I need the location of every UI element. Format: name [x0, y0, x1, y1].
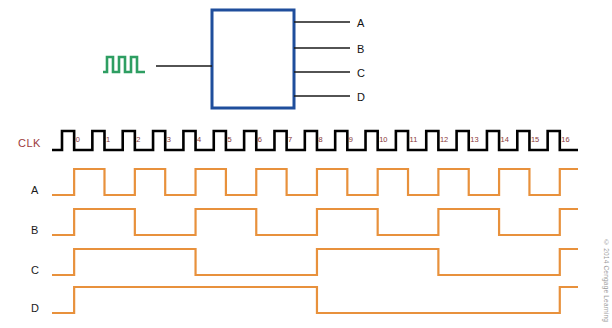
- diagram-vector-layer: [0, 0, 612, 328]
- waveform-clk: [52, 131, 578, 150]
- waveform-group: [52, 131, 578, 313]
- waveform-c: [52, 249, 578, 275]
- counter-block-box: [212, 10, 294, 108]
- figure-canvas: CLK QA QB QC QD A B C D CLK A B C D 0123…: [0, 0, 612, 328]
- waveform-a: [52, 169, 578, 195]
- clock-pulse-icon: [103, 57, 145, 72]
- waveform-d: [52, 287, 578, 313]
- waveform-b: [52, 209, 578, 235]
- copyright-notice: © 2014 Cengage Learning: [603, 239, 610, 322]
